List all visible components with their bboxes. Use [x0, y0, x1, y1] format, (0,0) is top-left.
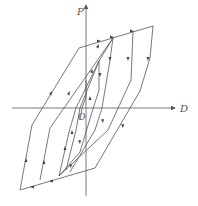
arrow-icon: [96, 44, 99, 49]
arrow-icon: [89, 96, 92, 100]
loop-2-descending: [70, 38, 113, 172]
hysteresis-diagram: P D O: [0, 0, 198, 206]
outer-loop-top: [79, 26, 153, 48]
arrow-icon: [71, 130, 74, 134]
arrow-icon: [67, 91, 70, 96]
arrow-icon: [78, 140, 81, 144]
p-axis-label: P: [76, 6, 84, 17]
d-axis-label: D: [179, 103, 188, 114]
arrow-icon: [43, 160, 46, 164]
arrow-icon: [49, 180, 53, 183]
axes: P D O: [12, 5, 188, 196]
arrow-icon: [49, 91, 52, 96]
arrow-icon: [121, 124, 124, 128]
arrow-icon: [109, 57, 112, 61]
arrow-icon: [127, 57, 130, 61]
arrow-icon: [25, 158, 28, 162]
arrow-icon: [30, 186, 34, 189]
outer-loop-left: [20, 48, 79, 190]
arrow-icon: [101, 119, 104, 123]
loop-3: [40, 31, 133, 180]
